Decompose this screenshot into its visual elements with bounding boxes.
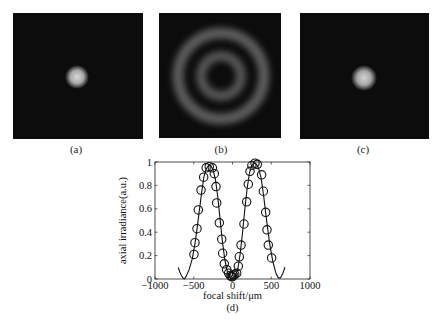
x-tick-label: 500 xyxy=(263,280,279,291)
y-tick-label: 0.8 xyxy=(139,180,152,191)
x-tick-label: −1000 xyxy=(142,280,169,291)
axial-irradiance-plot: −1000−5000500100000.20.40.60.81 focal sh… xyxy=(0,0,438,328)
y-tick-label: 0.6 xyxy=(139,203,152,214)
y-tick-label: 0 xyxy=(147,274,152,285)
x-axis-label: focal shift/μm xyxy=(203,290,262,301)
y-tick-label: 1 xyxy=(147,157,152,168)
x-tick-label: 1000 xyxy=(300,280,321,291)
y-tick-label: 0.4 xyxy=(139,227,153,238)
y-tick-label: 0.2 xyxy=(139,250,152,261)
plot-d-caption: (d) xyxy=(226,302,239,314)
plot-frame xyxy=(155,162,310,279)
x-tick-label: −500 xyxy=(183,280,205,291)
y-axis-label: axial irradiance(a.u.) xyxy=(117,176,129,264)
